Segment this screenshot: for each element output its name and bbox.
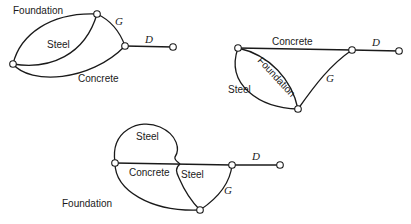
node [170,44,177,51]
edge-g [298,50,352,109]
label-concrete: Concrete [272,36,313,47]
label-g: G [326,72,334,84]
node [112,160,119,167]
label-steel: Steel [181,169,204,180]
label-d: D [144,33,153,45]
edge-concrete [238,48,352,50]
edge-d [352,50,399,51]
network-diagram-2: Concrete Foundation Steel G D [228,36,402,112]
node [277,162,284,169]
node [235,45,242,52]
node [229,162,236,169]
network-diagram-3: Steel Concrete Steel Foundation G D [62,124,283,213]
node [197,207,204,214]
label-concrete: Concrete [129,167,170,178]
label-steel: Steel [228,84,251,95]
edge-concrete [115,163,232,165]
label-foundation: Foundation [256,55,298,99]
label-d: D [251,150,260,162]
node [10,61,17,68]
node [396,48,403,55]
label-g: G [224,184,232,196]
label-foundation: Foundation [62,198,112,209]
label-foundation: Foundation [13,5,63,16]
label-steel-loop: Steel [136,131,159,142]
node [349,47,356,54]
label-d: D [371,36,380,48]
label-g: G [115,15,123,27]
network-diagram-1: Foundation Steel Concrete G D [10,5,177,84]
edge-d [125,46,173,47]
label-steel: Steel [47,39,70,50]
node [94,11,101,18]
network-diagrams-figure: Foundation Steel Concrete G D Concrete F… [0,0,411,224]
node [295,106,302,113]
edge-foundation [238,48,298,109]
label-concrete: Concrete [78,73,119,84]
node [122,43,129,50]
